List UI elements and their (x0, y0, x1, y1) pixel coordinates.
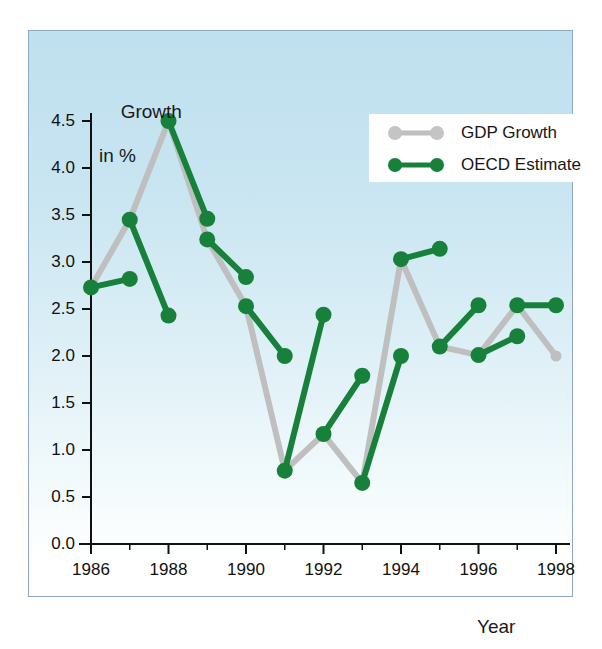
y-tick-label: 1.5 (25, 393, 75, 413)
legend-label-gdp-growth: GDP Growth (461, 123, 557, 143)
x-tick-label: 1998 (531, 560, 581, 580)
x-tick-label: 1988 (144, 560, 194, 580)
y-tick-label: 2.0 (25, 346, 75, 366)
y-tick-label: 3.5 (25, 205, 75, 225)
y-tick-label: 3.0 (25, 252, 75, 272)
x-tick-label: 1996 (454, 560, 504, 580)
x-tick-label: 1986 (66, 560, 116, 580)
legend-item-gdp-growth: GDP Growth (369, 116, 585, 150)
y-tick-label: 4.0 (25, 158, 75, 178)
y-tick-label: 1.0 (25, 440, 75, 460)
x-axis-title: Year (477, 616, 515, 638)
y-tick-label: 4.5 (25, 111, 75, 131)
y-tick-label: 0.0 (25, 534, 75, 554)
x-tick-label: 1990 (221, 560, 271, 580)
legend-label-oecd-estimate: OECD Estimate (461, 155, 581, 175)
chart-panel: Growth in % Year GDP Growth OECD Estima (28, 30, 573, 597)
y-tick-label: 0.5 (25, 487, 75, 507)
y-axis-title-line1: Growth (121, 101, 182, 122)
legend-swatch-oecd-estimate (387, 157, 445, 173)
y-axis-title: Growth in % (89, 79, 182, 211)
x-tick-label: 1994 (376, 560, 426, 580)
x-tick-label: 1992 (299, 560, 349, 580)
chart-legend: GDP Growth OECD Estimate (369, 114, 585, 182)
y-axis-title-line2: in % (89, 145, 182, 167)
chart-page: Growth in % Year GDP Growth OECD Estima (0, 0, 602, 649)
legend-item-oecd-estimate: OECD Estimate (369, 148, 585, 182)
legend-swatch-gdp-growth (387, 125, 445, 141)
y-tick-label: 2.5 (25, 299, 75, 319)
